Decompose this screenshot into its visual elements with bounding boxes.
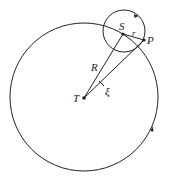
label-xi: ξ [105, 85, 110, 98]
point-S [121, 32, 124, 35]
label-S: S [119, 20, 125, 32]
label-T: T [73, 92, 80, 104]
orbit-diagram: S r P R T ξ [0, 0, 169, 183]
point-T [82, 96, 86, 100]
label-P: P [146, 34, 154, 46]
point-P [142, 38, 145, 41]
label-r: r [132, 28, 136, 38]
label-R: R [90, 61, 98, 73]
